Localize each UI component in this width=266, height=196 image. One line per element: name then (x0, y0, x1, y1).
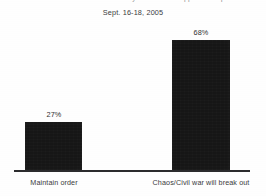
bar-value-label-maintain-order: 27% (26, 110, 82, 119)
bar-maintain-order (25, 122, 82, 170)
x-axis-baseline (14, 170, 250, 172)
bar-chaos-civil-war (172, 40, 230, 170)
bar-value-label-chaos-civil-war: 68% (173, 28, 229, 37)
category-label-maintain-order: Maintain order (14, 178, 94, 187)
plot-area: 27% Maintain order 68% Chaos/Civil war w… (0, 0, 266, 196)
category-label-chaos-civil-war: Chaos/Civil war will break out (137, 178, 265, 187)
bar-chart-figure: Which best describes what you think will… (0, 0, 266, 196)
